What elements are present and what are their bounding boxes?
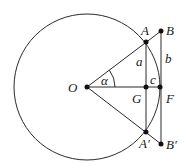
label-c: c — [150, 72, 156, 87]
label-A: A — [140, 23, 149, 38]
angle-arc-alpha — [109, 70, 115, 87]
point-A — [144, 40, 149, 45]
point-B — [159, 29, 164, 34]
label-B-prime: B′ — [166, 137, 177, 152]
label-F: F — [165, 91, 175, 106]
label-b: b — [165, 51, 172, 66]
label-A-prime: A′ — [138, 136, 150, 151]
point-B-prime — [159, 142, 164, 147]
label-O: O — [68, 80, 78, 95]
point-A-prime — [144, 130, 149, 135]
point-F — [158, 85, 163, 90]
point-O — [85, 85, 90, 90]
label-alpha: α — [101, 73, 109, 88]
geometry-diagram: O A B G F A′ B′ a b c α — [0, 0, 186, 168]
label-B: B — [166, 23, 174, 38]
label-a: a — [136, 54, 143, 69]
segment-OB-prime — [87, 87, 161, 144]
label-G: G — [132, 91, 142, 106]
point-G — [144, 85, 149, 90]
